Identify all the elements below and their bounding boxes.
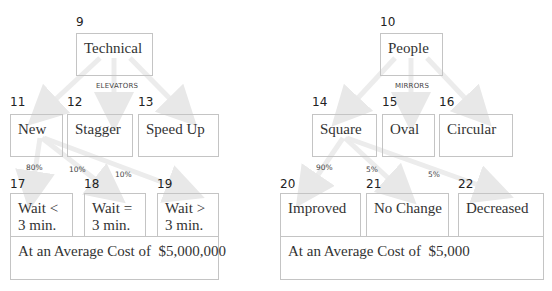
probability-label: 5%: [428, 171, 440, 179]
node-label: No Change: [374, 200, 442, 217]
node-label: Circular: [447, 121, 496, 138]
option-square-node: Square: [312, 114, 377, 157]
outcome-wait-equal-node: Wait =3 min.: [84, 193, 146, 237]
node-number: 19: [157, 178, 172, 190]
probability-label: 90%: [316, 164, 333, 172]
probability-label: 5%: [366, 166, 378, 174]
probability-label: 10%: [115, 171, 132, 179]
option-circular-node: Circular: [439, 114, 513, 157]
node-number: 21: [366, 178, 381, 190]
cost-label: At an Average Cost of $5,000,000: [18, 243, 226, 260]
mirrors-caption: MIRRORS: [395, 83, 429, 90]
node-number: 11: [10, 96, 25, 108]
probability-label: 10%: [69, 166, 86, 174]
outcome-wait-less-node: Wait <3 min.: [10, 193, 73, 237]
node-label: Improved: [288, 200, 346, 217]
node-number: 20: [280, 178, 295, 190]
node-number: 13: [138, 96, 153, 108]
node-label: Stagger: [75, 121, 121, 138]
elevators-caption: ELEVATORS: [96, 83, 138, 90]
option-new-node: New: [10, 114, 63, 157]
node-label: Square: [320, 121, 362, 138]
option-stagger-node: Stagger: [67, 114, 133, 157]
probability-label: 80%: [26, 164, 43, 172]
node-number: 9: [76, 16, 84, 28]
people-node: People: [380, 33, 443, 76]
node-label: Speed Up: [146, 121, 205, 138]
node-label: People: [388, 40, 429, 57]
outcome-improved-node: Improved: [280, 193, 361, 237]
node-number: 22: [458, 178, 473, 190]
cost-box: At an Average Cost of $5,000,000: [10, 236, 219, 280]
option-speed-up-node: Speed Up: [138, 114, 219, 157]
node-number: 17: [10, 178, 25, 190]
node-label: Wait =3 min.: [92, 200, 132, 234]
node-label: New: [18, 121, 46, 138]
node-number: 14: [312, 96, 327, 108]
node-number: 18: [84, 178, 99, 190]
node-label: Wait <3 min.: [18, 200, 58, 234]
node-number: 15: [382, 96, 397, 108]
node-number: 10: [380, 16, 395, 28]
outcome-wait-greater-node: Wait >3 min.: [157, 193, 219, 237]
node-label: Wait >3 min.: [165, 200, 205, 234]
technical-node: Technical: [76, 33, 153, 76]
cost-box: At an Average Cost of $5,000: [280, 236, 544, 280]
outcome-decreased-node: Decreased: [458, 193, 544, 237]
node-label: Decreased: [466, 200, 528, 217]
node-number: 12: [67, 96, 82, 108]
option-oval-node: Oval: [382, 114, 435, 157]
node-label: Technical: [84, 40, 142, 57]
node-number: 16: [439, 96, 454, 108]
cost-label: At an Average Cost of $5,000: [288, 243, 470, 260]
outcome-no-change-node: No Change: [366, 193, 449, 237]
node-label: Oval: [390, 121, 419, 138]
